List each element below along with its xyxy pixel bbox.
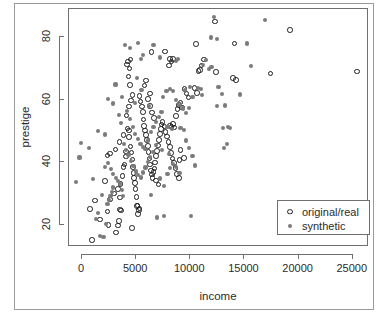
data-point — [249, 64, 253, 68]
data-point — [145, 96, 151, 102]
data-point — [96, 211, 100, 215]
data-point — [160, 148, 164, 152]
y-axis-tick-label: 20 — [40, 218, 52, 230]
data-point — [134, 203, 140, 209]
data-point — [152, 166, 158, 172]
data-point — [204, 58, 208, 62]
data-point — [136, 137, 140, 141]
data-point — [104, 222, 108, 226]
data-point — [141, 170, 145, 174]
x-axis-tick-label: 25000 — [336, 262, 367, 274]
x-axis-tick-label: 5000 — [123, 262, 147, 274]
data-point — [120, 95, 124, 99]
data-point — [105, 202, 109, 206]
x-axis-tick-label: 10000 — [174, 262, 205, 274]
data-point — [168, 166, 172, 170]
data-point — [102, 178, 108, 184]
data-point — [222, 146, 226, 150]
y-axis-tick-label: 80 — [40, 30, 52, 42]
data-point — [193, 163, 197, 167]
data-point — [131, 164, 135, 168]
data-point — [79, 141, 83, 145]
data-point — [151, 125, 155, 129]
data-point — [212, 19, 218, 25]
y-axis-tick — [59, 99, 64, 100]
legend-label-original: original/real — [302, 206, 359, 218]
data-point — [113, 230, 119, 236]
data-point — [177, 157, 183, 163]
data-point — [128, 117, 132, 121]
data-point — [184, 138, 188, 142]
plot-legend: original/real synthetic — [277, 200, 370, 235]
data-point — [189, 214, 193, 218]
data-point — [128, 144, 134, 150]
data-point — [139, 88, 143, 92]
x-axis-tick — [243, 254, 244, 259]
data-point — [139, 175, 143, 179]
y-axis-tick-label: 40 — [40, 155, 52, 167]
data-point — [263, 18, 267, 22]
data-point — [154, 120, 158, 124]
data-point — [225, 142, 229, 146]
data-point — [209, 35, 213, 39]
y-axis-tick — [59, 36, 64, 37]
x-axis-title: income — [199, 290, 236, 302]
data-point — [136, 41, 140, 45]
data-point — [238, 92, 242, 96]
data-point — [143, 147, 147, 151]
data-point — [151, 150, 155, 154]
data-point — [120, 188, 124, 192]
x-axis-tick-label: 0 — [78, 262, 84, 274]
data-point — [156, 182, 162, 188]
data-point — [158, 55, 162, 59]
data-point — [157, 131, 163, 137]
data-point — [223, 103, 227, 107]
data-point — [199, 87, 203, 91]
data-point — [178, 147, 184, 153]
data-point — [92, 198, 98, 204]
data-point — [201, 63, 205, 67]
filled-circle-icon — [288, 223, 292, 227]
data-point — [268, 71, 274, 77]
data-point — [108, 194, 112, 198]
data-point — [232, 41, 238, 47]
data-point — [200, 93, 204, 97]
data-point — [215, 37, 219, 41]
data-point — [216, 85, 220, 89]
data-point — [158, 176, 162, 180]
data-point — [130, 92, 136, 98]
data-point — [162, 49, 168, 55]
data-point — [149, 130, 153, 134]
data-point — [96, 129, 100, 133]
data-point — [190, 95, 194, 99]
data-point — [193, 41, 199, 47]
data-point — [187, 106, 191, 110]
data-point — [135, 211, 141, 217]
data-point — [74, 180, 78, 184]
data-point — [103, 165, 107, 169]
data-point — [111, 185, 115, 189]
data-point — [194, 90, 200, 96]
data-point — [147, 91, 153, 97]
data-point — [173, 113, 179, 119]
data-point — [109, 167, 113, 171]
data-point — [135, 76, 139, 80]
data-point — [133, 186, 139, 192]
data-point — [105, 209, 111, 215]
data-point — [209, 65, 213, 69]
data-point — [131, 125, 135, 129]
data-point — [116, 218, 122, 224]
legend-entry-original: original/real — [278, 204, 369, 219]
data-point — [170, 127, 174, 131]
legend-entry-synthetic: synthetic — [278, 218, 369, 233]
data-point — [103, 132, 107, 136]
data-point — [126, 134, 132, 140]
data-point — [120, 173, 126, 179]
data-point — [123, 43, 127, 47]
data-point — [228, 126, 232, 130]
data-point — [149, 49, 155, 55]
data-point — [77, 155, 81, 159]
data-point — [167, 144, 173, 150]
data-point — [245, 41, 249, 45]
x-axis-tick-label: 15000 — [228, 262, 259, 274]
